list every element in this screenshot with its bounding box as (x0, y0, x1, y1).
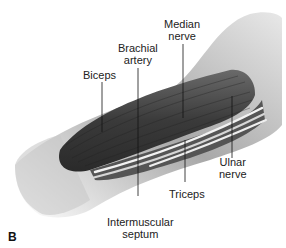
label-median-nerve: Median nerve (164, 18, 200, 42)
arm-illustration (0, 0, 286, 248)
anatomy-figure: Biceps Brachial artery Median nerve Ulna… (0, 0, 286, 248)
label-intermuscular-septum: Intermuscular septum (107, 216, 174, 240)
label-ulnar-nerve: Ulnar nerve (219, 156, 247, 180)
panel-letter: B (8, 230, 17, 244)
label-triceps: Triceps (169, 188, 205, 200)
label-brachial-artery: Brachial artery (118, 42, 158, 66)
label-biceps: Biceps (83, 69, 116, 81)
